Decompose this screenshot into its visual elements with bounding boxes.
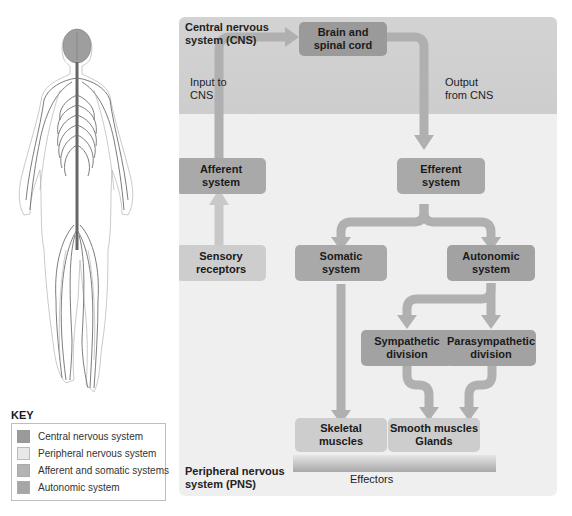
arrow-efferent-to-autonomic	[424, 204, 491, 239]
key-item-autonomic: Autonomic system	[17, 479, 120, 495]
cns-region-label: Central nervous system (CNS)	[185, 21, 295, 47]
effectors-label: Effectors	[350, 473, 393, 485]
arrow-autonomic-to-sympathetic	[407, 283, 491, 317]
swatch-autonomic	[17, 481, 30, 494]
arrow-efferent-to-somatic	[341, 204, 424, 239]
pns-region-label: Peripheral nervous system (PNS)	[185, 465, 305, 491]
key-item-afferent-somatic: Afferent and somatic systems	[17, 462, 169, 478]
key-label: Peripheral nervous system	[38, 448, 156, 459]
node-brain-spinal-cord: Brain and spinal cord	[299, 22, 387, 56]
node-somatic-system: Somatic system	[295, 245, 387, 281]
node-parasympathetic-division: Parasympathetic division	[446, 330, 536, 366]
node-afferent-system: Afferent system	[179, 158, 266, 194]
node-skeletal-muscles: Skeletal muscles	[295, 418, 387, 452]
input-to-cns-label: Input to CNS	[190, 76, 235, 102]
effectors-bar	[293, 455, 496, 472]
key-label: Afferent and somatic systems	[38, 465, 169, 476]
arrow-afferent-to-brain	[219, 37, 287, 176]
arrow-parasympathetic-to-smooth	[469, 363, 492, 409]
diagram-panel: Central nervous system (CNS) Input to CN…	[179, 17, 557, 496]
key-legend: Central nervous system Peripheral nervou…	[11, 423, 166, 501]
node-sympathetic-division: Sympathetic division	[361, 330, 453, 366]
key-label: Autonomic system	[38, 482, 120, 493]
nervous-system-figure	[0, 0, 170, 400]
node-efferent-system: Efferent system	[397, 158, 485, 194]
arrow-sympathetic-to-smooth	[407, 363, 429, 409]
swatch-cns	[17, 430, 30, 443]
node-smooth-muscles-glands: Smooth muscles Glands	[388, 418, 480, 452]
node-autonomic-system: Autonomic system	[447, 245, 535, 281]
node-sensory-receptors: Sensory receptors	[179, 245, 266, 281]
key-item-cns: Central nervous system	[17, 428, 143, 444]
output-from-cns-label: Output from CNS	[445, 76, 495, 102]
swatch-pns	[17, 447, 30, 460]
swatch-afferent-somatic	[17, 464, 30, 477]
key-label: Central nervous system	[38, 431, 143, 442]
key-item-pns: Peripheral nervous system	[17, 445, 156, 461]
key-title: KEY	[11, 409, 34, 421]
